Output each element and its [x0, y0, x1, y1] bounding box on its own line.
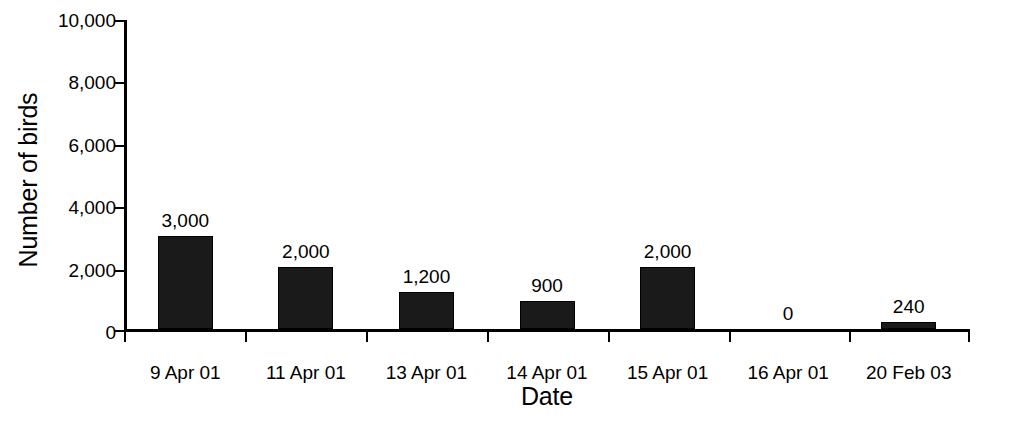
x-axis-category-label: 11 Apr 01: [266, 363, 346, 382]
x-axis-category-label: 9 Apr 01: [150, 363, 221, 382]
bar-value-label: 0: [783, 304, 794, 323]
y-axis-tick-labels: 10,000 8,000 6,000 4,000 2,000 0: [4, 0, 116, 428]
x-axis-category-label: 13 Apr 01: [386, 363, 467, 382]
x-tick-mark: [849, 332, 851, 342]
x-axis-category-label: 16 Apr 01: [747, 363, 828, 382]
x-tick-mark: [729, 332, 731, 342]
bar-value-label: 2,000: [282, 242, 330, 261]
bar-value-label: 240: [893, 297, 925, 316]
bar: [520, 301, 575, 329]
bar: [640, 267, 695, 329]
x-axis-title: Date: [124, 382, 970, 411]
y-tick-label: 0: [8, 323, 116, 342]
y-tick-mark: [115, 20, 125, 22]
x-axis-line: [124, 329, 970, 332]
y-tick-mark: [115, 270, 125, 272]
bar: [881, 322, 936, 329]
x-axis-category-label: 15 Apr 01: [627, 363, 708, 382]
y-tick-label: 4,000: [8, 198, 116, 217]
y-tick-mark: [115, 207, 125, 209]
bar: [158, 236, 213, 329]
x-tick-mark: [968, 332, 970, 342]
bar-value-label: 2,000: [644, 242, 692, 261]
x-tick-mark: [487, 332, 489, 342]
y-tick-label: 10,000: [8, 11, 116, 30]
bar: [278, 267, 333, 329]
x-tick-mark: [366, 332, 368, 342]
y-tick-label: 2,000: [8, 261, 116, 280]
x-tick-mark: [608, 332, 610, 342]
plot-area: 3,0002,0001,2009002,0000240 9 Apr 0111 A…: [124, 20, 970, 332]
x-axis-category-label: 20 Feb 03: [866, 363, 952, 382]
bar-value-label: 900: [531, 276, 563, 295]
x-axis-category-label: 14 Apr 01: [506, 363, 587, 382]
y-tick-mark: [115, 145, 125, 147]
y-tick-label: 6,000: [8, 136, 116, 155]
y-tick-label: 8,000: [8, 73, 116, 92]
x-tick-mark: [124, 332, 126, 342]
bar-value-label: 3,000: [162, 211, 210, 230]
y-tick-mark: [115, 82, 125, 84]
bar-chart-figure: Number of birds 10,000 8,000 6,000 4,000…: [0, 0, 1010, 428]
y-axis-line: [124, 20, 127, 332]
bar-value-label: 1,200: [403, 267, 451, 286]
bar: [399, 292, 454, 329]
x-tick-mark: [245, 332, 247, 342]
